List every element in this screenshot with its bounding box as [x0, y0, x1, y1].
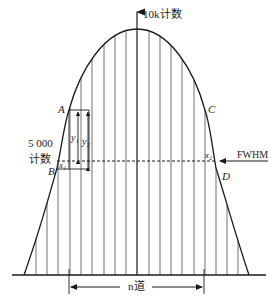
fwhm-label: FWHM [237, 150, 268, 160]
x2-label: x₂ [205, 151, 212, 160]
point-d-label: D [222, 171, 230, 182]
half-max-unit-label: 计数 [29, 154, 51, 165]
y-axis-label: 10k计数 [143, 9, 182, 20]
point-a-label: A [58, 104, 65, 115]
point-b-label: B [48, 166, 55, 177]
half-max-label: 5 000 [28, 138, 53, 149]
x1-label: x₁ [59, 161, 66, 170]
peak-graphic [0, 0, 275, 302]
y2-label: y₂ [82, 137, 90, 147]
y1-label: y₁ [71, 133, 79, 143]
point-c-label: C [208, 104, 215, 115]
fwhm-peak-diagram: 10k计数 A C B D 5 000 计数 x₁ x₂ y₁ y₂ FWHM … [0, 0, 275, 302]
width-label: n道 [128, 281, 145, 292]
